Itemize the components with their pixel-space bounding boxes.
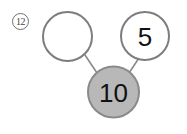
bond-part-right-value: 5 (138, 22, 152, 52)
bond-whole-value: 10 (99, 78, 128, 108)
number-bond-diagram: 10 5 (0, 0, 187, 134)
worksheet-canvas: 12 10 5 (0, 0, 187, 134)
bond-part-left-circle[interactable] (43, 12, 92, 61)
connector-line-left-part (85, 55, 97, 73)
